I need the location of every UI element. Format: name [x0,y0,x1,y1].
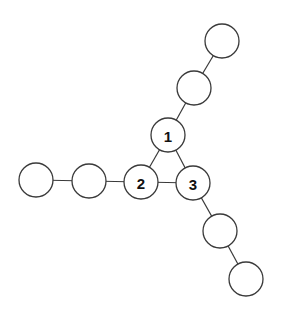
node-circle [205,24,239,58]
node-circle [229,262,263,296]
node-circle [177,71,211,105]
graph-node-b1 [203,214,237,248]
graph-node-n3: 3 [176,166,210,200]
node-circle [72,164,106,198]
graph-node-n2: 2 [124,165,158,199]
graph-node-l1 [72,164,106,198]
nodes: 123 [19,24,263,296]
graph-node-b2 [229,262,263,296]
graph-node-n1: 1 [151,118,185,152]
node-label: 1 [164,128,172,145]
graph-node-t1 [177,71,211,105]
graph-node-l2 [19,163,53,197]
node-circle [19,163,53,197]
graph-diagram: 123 [0,0,281,319]
node-label: 3 [189,176,197,193]
node-label: 2 [137,175,145,192]
node-circle [203,214,237,248]
graph-node-t2 [205,24,239,58]
